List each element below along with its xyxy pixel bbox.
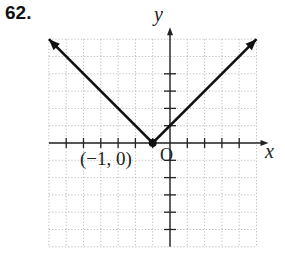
vertex-point <box>149 139 157 147</box>
y-axis-label: y <box>154 3 163 26</box>
y-axis-arrow-icon <box>167 27 173 35</box>
vertex-label: (−1, 0) <box>80 148 132 170</box>
x-axis-label: x <box>265 140 274 163</box>
coordinate-graph <box>0 0 285 262</box>
origin-label: O <box>160 145 173 166</box>
